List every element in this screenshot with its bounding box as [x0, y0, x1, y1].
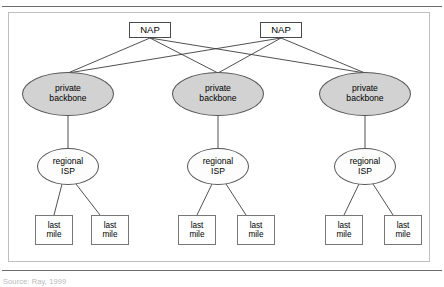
figure-bottom-rule [2, 270, 442, 271]
network-topology-figure: NAP NAP private backbone private backbon… [0, 0, 444, 287]
private-backbone-node-2[interactable]: private backbone [172, 72, 264, 116]
last-mile-node-6-label-line2: mile [395, 230, 410, 239]
last-mile-node-2-label-line2: mile [102, 230, 117, 239]
last-mile-node-6-label-line1: last [397, 221, 410, 230]
last-mile-node-4-label-line2: mile [248, 230, 263, 239]
last-mile-node-3-label-line1: last [191, 221, 204, 230]
last-mile-node-4-label-line1: last [250, 221, 263, 230]
last-mile-node-3-label-line2: mile [189, 230, 204, 239]
last-mile-node-2[interactable]: last mile [91, 215, 129, 245]
last-mile-node-1-label-line1: last [48, 221, 61, 230]
last-mile-node-3[interactable]: last mile [178, 215, 216, 245]
nap-node-2[interactable]: NAP [260, 22, 302, 38]
private-backbone-node-3-label-line2: backbone [346, 94, 383, 104]
regional-isp-node-1-label-line2: ISP [61, 167, 75, 177]
nap-node-2-label: NAP [271, 25, 291, 36]
regional-isp-node-2[interactable]: regional ISP [187, 148, 249, 185]
last-mile-node-5-label-line1: last [338, 221, 351, 230]
last-mile-node-5-label-line2: mile [336, 230, 351, 239]
nap-node-1-label: NAP [140, 25, 160, 36]
regional-isp-node-2-label-line2: ISP [211, 167, 225, 177]
nap-node-1[interactable]: NAP [129, 22, 171, 38]
last-mile-node-1[interactable]: last mile [35, 215, 73, 245]
source-caption: Source: Ray, 1999 [3, 277, 66, 286]
figure-top-rule [2, 6, 442, 7]
last-mile-node-2-label-line1: last [104, 221, 117, 230]
regional-isp-node-1[interactable]: regional ISP [37, 148, 99, 185]
regional-isp-node-3-label-line2: ISP [358, 167, 372, 177]
private-backbone-node-1-label-line2: backbone [49, 94, 86, 104]
last-mile-node-4[interactable]: last mile [237, 215, 275, 245]
last-mile-node-1-label-line2: mile [46, 230, 61, 239]
regional-isp-node-3[interactable]: regional ISP [334, 148, 396, 185]
last-mile-node-6[interactable]: last mile [384, 215, 422, 245]
private-backbone-node-2-label-line2: backbone [199, 94, 236, 104]
last-mile-node-5[interactable]: last mile [325, 215, 363, 245]
private-backbone-node-3[interactable]: private backbone [319, 72, 411, 116]
private-backbone-node-1[interactable]: private backbone [22, 72, 114, 116]
